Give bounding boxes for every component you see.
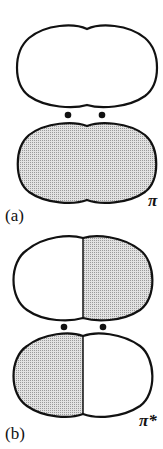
orbital-diagram [0, 0, 163, 449]
pi-lower-lobe-shaded [18, 123, 157, 203]
orbital-label-pi-star: π* [139, 411, 157, 431]
nucleus-right-b [100, 324, 107, 331]
panel-label-a: (a) [5, 206, 24, 226]
pistar-lower-right-unshaded [83, 328, 163, 423]
orbital-label-pi: π [148, 191, 157, 211]
nucleus-right-a [99, 112, 106, 119]
pi-upper-lobe [17, 26, 157, 108]
nucleus-left-a [65, 112, 72, 119]
panel-label-b: (b) [5, 424, 25, 444]
nucleus-left-b [61, 324, 68, 331]
pistar-upper-right-shaded [83, 230, 163, 330]
panel-b [0, 230, 163, 423]
panel-a [17, 26, 157, 203]
